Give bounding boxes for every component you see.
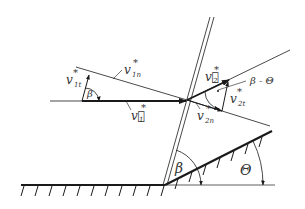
svg-text:*: * [237,86,242,97]
theta-arc [253,141,263,185]
label-v1n: v 1n * [124,57,141,79]
label-beta-top: β [86,88,93,99]
svg-text:v: v [197,109,204,123]
svg-text:2t: 2t [237,100,245,108]
label-v2t: v 2t * [230,86,245,108]
v2n-vector [187,100,222,111]
svg-text:1n: 1n [132,71,141,79]
svg-text:1: 1 [139,116,143,124]
v2t-vector [222,82,228,111]
svg-text:v: v [66,73,73,87]
label-theta: Θ [240,162,252,178]
label-beta-minus-theta: β - Θ [249,75,274,86]
svg-text:2n: 2n [204,117,214,125]
label-v1: v⃗ 1 * [131,102,146,124]
svg-text:*: * [141,102,146,113]
svg-text:v: v [230,92,237,106]
svg-text:*: * [73,67,78,78]
svg-text:1t: 1t [74,81,81,89]
svg-text:v: v [124,63,131,77]
label-v1t: v 1t * [66,67,81,89]
svg-text:*: * [214,64,219,75]
svg-text:*: * [206,103,211,114]
svg-text:*: * [133,57,138,68]
diagram-svg: v 1n * v 1t * β v⃗ 1 * v⃗ 2 * β - Θ v 2t… [0,0,305,209]
label-v2n: v 2n * [197,103,214,125]
leader-v1n [113,70,122,79]
label-beta-bottom: β [174,160,183,176]
svg-text:2: 2 [212,77,218,85]
physics-diagram: v 1n * v 1t * β v⃗ 1 * v⃗ 2 * β - Θ v 2t… [0,0,305,209]
label-v2: v⃗ 2 * [205,64,219,85]
ground-surface [21,185,165,196]
